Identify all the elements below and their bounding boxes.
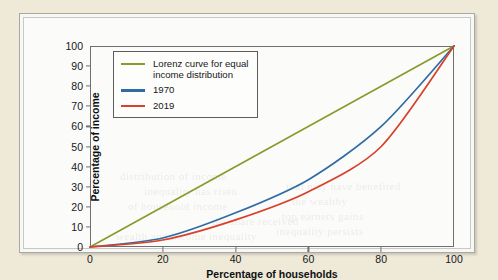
y-axis-title: Percentage of income	[89, 92, 101, 201]
x-tick-label: 80	[375, 253, 387, 265]
legend-item: 1970	[121, 84, 248, 95]
legend-color-swatch	[121, 105, 145, 107]
legend-label: 1970	[153, 84, 174, 95]
x-tick-label: 60	[303, 253, 315, 265]
legend-color-swatch	[121, 89, 145, 91]
y-tick-label: 90	[71, 60, 83, 72]
y-tick-label: 60	[71, 120, 83, 132]
y-tick-label: 0	[77, 241, 83, 253]
y-tick-label: 30	[71, 181, 83, 193]
legend-label: 2019	[153, 100, 174, 111]
y-tick-label: 50	[71, 141, 83, 153]
plot-area: 0102030405060708090100 020406080100 Perc…	[90, 46, 454, 247]
y-tick-label: 70	[71, 100, 83, 112]
x-tick-label: 0	[87, 253, 93, 265]
x-tick-label: 20	[157, 253, 169, 265]
legend-item: 2019	[121, 100, 248, 111]
y-tick-label: 80	[71, 80, 83, 92]
x-tick-mark	[308, 247, 309, 252]
x-tick-mark	[235, 247, 236, 252]
legend-label: Lorenz curve for equal income distributi…	[153, 58, 248, 80]
x-axis-title: Percentage of households	[90, 268, 454, 280]
x-tick-mark	[162, 247, 163, 252]
y-tick-label: 40	[71, 161, 83, 173]
x-tick-label: 100	[445, 253, 463, 265]
x-tick-mark	[381, 247, 382, 252]
x-tick-label: 40	[230, 253, 242, 265]
legend-item: Lorenz curve for equal income distributi…	[121, 58, 248, 80]
chart-legend: Lorenz curve for equal income distributi…	[113, 51, 258, 118]
y-tick-label: 100	[65, 40, 83, 52]
figure-inner-panel: distribution of incomeinequality has ris…	[23, 17, 471, 249]
figure-panel: distribution of incomeinequality has ris…	[19, 13, 475, 253]
y-tick-label: 10	[71, 221, 83, 233]
legend-color-swatch	[121, 63, 145, 65]
y-tick-label: 20	[71, 201, 83, 213]
